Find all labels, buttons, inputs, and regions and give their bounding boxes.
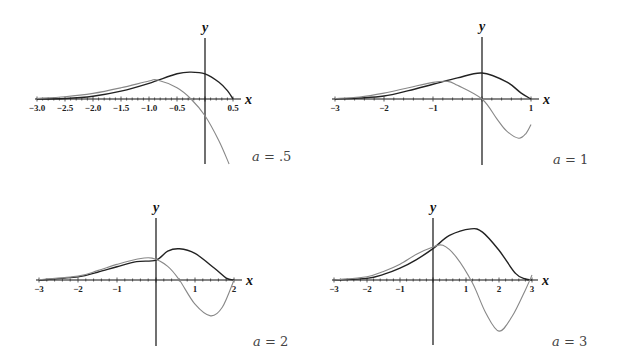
x-tick-label: −1 [428,103,438,113]
x-tick-label: −0.5 [169,103,186,113]
x-tick-label: −3.0 [29,103,46,113]
x-tick-label: −1.5 [113,103,130,113]
x-tick-label: 1 [529,103,534,113]
x-tick-label: −1 [112,284,122,294]
x-tick-label: −3 [330,103,340,113]
parameter-label: a = 2 [253,334,288,349]
plot-panel-3: −3−2−112xya = 2 [34,200,288,349]
y-axis-label: y [200,20,209,35]
x-tick-label: −2.0 [85,103,102,113]
dark-curve-line [37,72,233,99]
plot-panel-2: −3−2−11xya = 1 [330,19,588,167]
x-tick-label: 1 [464,284,469,294]
x-tick-label: 2 [232,284,237,294]
dark-curve-line [39,249,234,280]
x-tick-label: 3 [530,284,535,294]
x-tick-label: −1.0 [141,103,158,113]
x-axis-label: x [245,273,253,288]
x-tick-label: 1 [193,284,198,294]
parameter-label: a = 3 [552,334,587,349]
parameter-label: a = .5 [252,149,291,164]
parameter-label: a = 1 [553,152,588,167]
dark-curve-line [335,73,531,99]
x-tick-label: −3 [329,284,339,294]
x-tick-label: 0.5 [227,103,239,113]
x-axis-label: x [541,273,549,288]
y-axis-label: y [151,200,160,215]
light-curve-line [37,79,229,164]
x-tick-label: −2.5 [57,103,74,113]
y-axis-label: y [428,200,437,215]
light-curve-line [39,258,234,316]
x-axis-label: x [244,92,252,107]
x-tick-label: 2 [497,284,502,294]
x-tick-label: −2 [379,103,389,113]
x-axis-label: x [542,92,550,107]
figure-canvas: −3.0−2.5−2.0−1.5−1.0−0.50.5xya = .5−3−2−… [0,0,617,362]
plot-panel-1: −3.0−2.5−2.0−1.5−1.0−0.50.5xya = .5 [29,20,292,164]
x-tick-label: −1 [395,284,405,294]
y-axis-label: y [477,19,486,34]
plot-panel-4: −3−2−1123xya = 3 [329,200,587,349]
x-tick-label: −2 [362,284,372,294]
x-tick-label: −2 [73,284,83,294]
x-tick-label: −3 [34,284,44,294]
